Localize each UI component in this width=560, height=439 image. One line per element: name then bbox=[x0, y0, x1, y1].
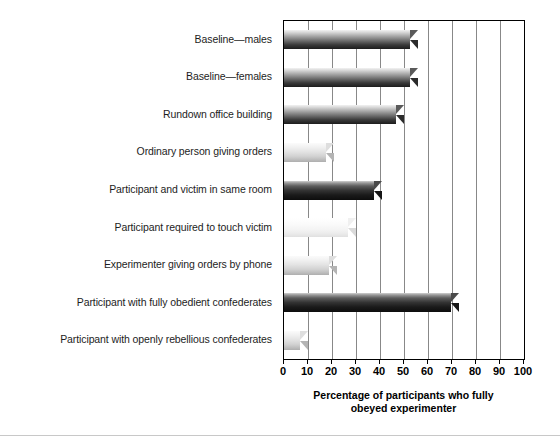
bar-body bbox=[284, 105, 396, 124]
bar-6 bbox=[284, 256, 337, 275]
category-label-row: Participant and victim in same room bbox=[0, 170, 278, 208]
bar-tip-icon bbox=[451, 293, 459, 312]
bar-body bbox=[284, 331, 300, 350]
x-tick-label: 100 bbox=[514, 365, 532, 377]
x-tick-label: 50 bbox=[397, 365, 409, 377]
bar-body bbox=[284, 143, 326, 162]
bar-row-1 bbox=[284, 59, 524, 97]
bar-body bbox=[284, 218, 348, 237]
bar-tip-icon bbox=[374, 181, 382, 200]
category-label: Participant and victim in same room bbox=[109, 183, 272, 195]
bar-3 bbox=[284, 143, 334, 162]
plot-area bbox=[283, 20, 525, 360]
bar-tip-icon bbox=[410, 30, 418, 49]
x-tick bbox=[523, 359, 524, 364]
bars-layer bbox=[284, 21, 524, 359]
bar-body bbox=[284, 30, 410, 49]
category-label: Experimenter giving orders by phone bbox=[104, 258, 272, 270]
x-tick bbox=[331, 359, 332, 364]
category-label-row: Experimenter giving orders by phone bbox=[0, 245, 278, 283]
x-tick bbox=[403, 359, 404, 364]
bar-chart-figure: Baseline—males Baseline—females Rundown … bbox=[0, 0, 560, 439]
category-label-column: Baseline—males Baseline—females Rundown … bbox=[0, 20, 278, 358]
category-label-row: Participant with openly rebellious confe… bbox=[0, 321, 278, 359]
bar-tip-icon bbox=[329, 256, 337, 275]
category-label-row: Ordinary person giving orders bbox=[0, 133, 278, 171]
x-axis-title-line-2: obeyed experimenter bbox=[283, 402, 524, 415]
bar-2 bbox=[284, 105, 404, 124]
bar-row-4 bbox=[284, 171, 524, 209]
category-label: Rundown office building bbox=[163, 108, 272, 120]
x-tick-label: 0 bbox=[280, 365, 286, 377]
bar-body bbox=[284, 256, 329, 275]
category-label: Participant with openly rebellious confe… bbox=[60, 333, 272, 345]
category-label: Participant with fully obedient confeder… bbox=[77, 296, 272, 308]
category-label-row: Baseline—males bbox=[0, 20, 278, 58]
bar-8 bbox=[284, 331, 308, 350]
bar-tip-icon bbox=[396, 105, 404, 124]
bar-0 bbox=[284, 30, 418, 49]
x-tick bbox=[379, 359, 380, 364]
bar-body bbox=[284, 68, 410, 87]
x-axis: 0102030405060708090100 bbox=[283, 359, 524, 389]
x-tick-label: 90 bbox=[493, 365, 505, 377]
x-tick-label: 80 bbox=[469, 365, 481, 377]
x-tick-label: 20 bbox=[325, 365, 337, 377]
bar-body bbox=[284, 293, 451, 312]
category-label-row: Participant required to touch victim bbox=[0, 208, 278, 246]
x-tick-label: 70 bbox=[445, 365, 457, 377]
category-label: Ordinary person giving orders bbox=[137, 145, 272, 157]
x-axis-title-line-1: Percentage of participants who fully bbox=[283, 389, 524, 402]
x-tick bbox=[355, 359, 356, 364]
x-tick bbox=[307, 359, 308, 364]
bar-4 bbox=[284, 181, 382, 200]
bar-row-7 bbox=[284, 284, 524, 322]
figure-bottom-rule bbox=[0, 435, 560, 436]
bar-tip-icon bbox=[300, 331, 308, 350]
x-axis-title: Percentage of participants who fully obe… bbox=[283, 389, 524, 415]
category-label-row: Participant with fully obedient confeder… bbox=[0, 283, 278, 321]
bar-7 bbox=[284, 293, 459, 312]
bar-5 bbox=[284, 218, 356, 237]
bar-row-5 bbox=[284, 209, 524, 247]
bar-body bbox=[284, 181, 374, 200]
bar-row-3 bbox=[284, 134, 524, 172]
x-tick-label: 30 bbox=[349, 365, 361, 377]
x-tick-label: 40 bbox=[373, 365, 385, 377]
bar-row-0 bbox=[284, 21, 524, 59]
x-tick bbox=[499, 359, 500, 364]
bar-tip-icon bbox=[410, 68, 418, 87]
category-label: Participant required to touch victim bbox=[115, 221, 272, 233]
bar-row-6 bbox=[284, 246, 524, 284]
bar-tip-icon bbox=[348, 218, 356, 237]
bar-tip-icon bbox=[326, 143, 334, 162]
x-tick-label: 60 bbox=[421, 365, 433, 377]
bar-1 bbox=[284, 68, 418, 87]
x-tick bbox=[475, 359, 476, 364]
category-label-row: Rundown office building bbox=[0, 95, 278, 133]
x-tick bbox=[283, 359, 284, 364]
x-tick-label: 10 bbox=[301, 365, 313, 377]
bar-row-2 bbox=[284, 96, 524, 134]
category-label-row: Baseline—females bbox=[0, 58, 278, 96]
bar-row-8 bbox=[284, 322, 524, 360]
x-tick bbox=[451, 359, 452, 364]
category-label: Baseline—females bbox=[186, 70, 272, 82]
x-tick bbox=[427, 359, 428, 364]
category-label: Baseline—males bbox=[195, 33, 272, 45]
